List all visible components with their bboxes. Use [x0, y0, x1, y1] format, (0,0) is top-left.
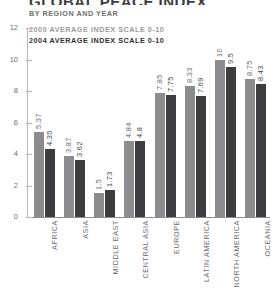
bar-group: 5.374.35: [34, 28, 55, 217]
bar: 7.85: [155, 93, 165, 217]
bar-value-label: 8.75: [246, 61, 255, 77]
x-axis-label: ASIA: [81, 220, 90, 239]
chart-container: GLOBAL PEACE INDEX BY REGION AND YEAR 20…: [0, 0, 275, 289]
bars-layer: 5.374.353.873.621.51.734.844.87.857.758.…: [28, 28, 270, 217]
x-axis-label: AFRICA: [50, 220, 59, 250]
bar-value-label: 1.5: [94, 179, 103, 190]
y-tick-label: 2: [0, 181, 18, 190]
bar: 4.8: [135, 141, 145, 217]
bar-value-label: 3.87: [64, 137, 73, 153]
bar-value-label: 3.62: [75, 141, 84, 157]
y-tick-label: 6: [0, 118, 18, 127]
bar: 1.73: [105, 190, 115, 217]
bar-group: 3.873.62: [64, 28, 85, 217]
bar: 7.69: [196, 96, 206, 217]
x-axis-label: OCEANIA: [263, 220, 272, 257]
x-axis-label: MIDDLE EAST: [111, 220, 120, 275]
chart-subtitle: BY REGION AND YEAR: [29, 9, 118, 18]
bar-group: 1.51.73: [94, 28, 115, 217]
y-tick-mark: [26, 217, 32, 218]
x-axis-line: [27, 217, 270, 218]
x-axis-label: CENTRAL ASIA: [141, 220, 150, 278]
y-tick-label: 12: [0, 23, 18, 32]
bar-value-label: 5.37: [34, 114, 43, 130]
bar: 8.75: [245, 79, 255, 217]
bar-value-label: 7.75: [166, 76, 175, 92]
x-axis-label: EUROPE: [172, 220, 181, 254]
bar-value-label: 9.5: [226, 53, 235, 64]
bar-value-label: 7.69: [196, 77, 205, 93]
bar-group: 8.758.43: [245, 28, 266, 217]
bar-value-label: 4.84: [125, 122, 134, 138]
bar-group: 4.844.8: [124, 28, 145, 217]
y-tick-label: 10: [0, 55, 18, 64]
bar: 4.35: [45, 149, 55, 218]
bar: 8.33: [185, 86, 195, 217]
x-axis-labels: AFRICAASIAMIDDLE EASTCENTRAL ASIAEUROPEL…: [27, 220, 270, 286]
bar: 5.37: [34, 132, 44, 217]
y-tick-label: 0: [0, 212, 18, 221]
y-tick-label: 4: [0, 149, 18, 158]
x-axis-label: NORTH AMERICA: [232, 220, 241, 288]
bar-value-label: 8.43: [257, 66, 266, 82]
bar: 9.5: [226, 67, 236, 217]
bar-group: 7.857.75: [155, 28, 176, 217]
plot-area: 024681012 5.374.353.873.621.51.734.844.8…: [27, 28, 270, 218]
bar-value-label: 7.85: [155, 75, 164, 91]
bar: 1.5: [94, 193, 104, 217]
bar-value-label: 1.73: [105, 171, 114, 187]
bar-group: 8.337.69: [185, 28, 206, 217]
bar-value-label: 4.8: [136, 127, 145, 138]
bar: 4.84: [124, 141, 134, 217]
bar: 10: [215, 60, 225, 218]
bar-value-label: 4.35: [45, 130, 54, 146]
chart-title: GLOBAL PEACE INDEX: [29, 0, 207, 5]
bar-value-label: 8.33: [185, 67, 194, 83]
bar: 3.62: [75, 160, 85, 217]
bar: 7.75: [166, 95, 176, 217]
bar: 8.43: [256, 84, 266, 217]
bar-value-label: 10: [215, 48, 224, 57]
y-tick-label: 8: [0, 86, 18, 95]
bar: 3.87: [64, 156, 74, 217]
x-axis-label: LATIN AMERICA: [202, 220, 211, 282]
bar-group: 109.5: [215, 28, 236, 217]
